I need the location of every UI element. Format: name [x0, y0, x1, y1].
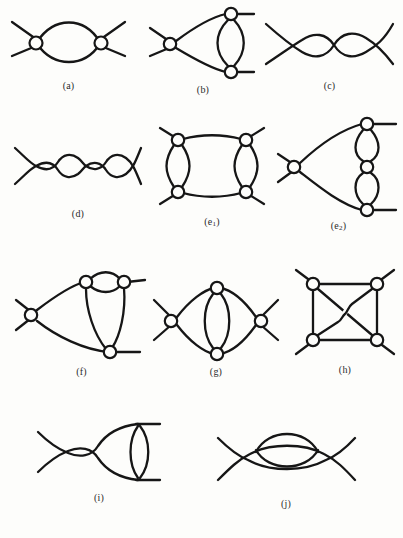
- diagram-f-graphic: [14, 262, 149, 362]
- diagram-i-caption: (i): [34, 492, 164, 503]
- diagram-j-graphic: [212, 410, 360, 494]
- diagram-row-4: (i) (j): [0, 404, 403, 538]
- diagram-f: (f): [14, 262, 149, 362]
- diagram-f-caption: (f): [14, 366, 149, 377]
- diagram-e1-graphic: [156, 120, 268, 212]
- diagram-c: (c): [262, 18, 397, 72]
- diagram-i: (i): [34, 418, 164, 488]
- diagram-row-1: (a): [0, 0, 403, 110]
- diagram-a-caption: (a): [6, 80, 131, 91]
- diagram-e1-caption: (e1): [156, 216, 268, 228]
- diagram-row-2: (d): [0, 112, 403, 242]
- diagram-b: (b): [148, 4, 258, 82]
- diagram-h-caption: (h): [290, 364, 400, 375]
- diagram-i-graphic: [34, 418, 164, 488]
- figure-plate: (a): [0, 0, 403, 538]
- diagram-g: (g): [152, 278, 280, 362]
- diagram-a: (a): [6, 8, 131, 78]
- diagram-b-graphic: [148, 4, 258, 82]
- diagram-e2-caption: (e2): [276, 220, 401, 232]
- diagram-d-graphic: [12, 142, 144, 190]
- diagram-c-caption: (c): [262, 80, 397, 91]
- diagram-e2: (e2): [276, 112, 401, 218]
- diagram-b-caption: (b): [148, 84, 258, 95]
- diagram-e2-graphic: [276, 112, 401, 218]
- diagram-g-caption: (g): [152, 366, 280, 377]
- diagram-row-3: (f): [0, 258, 403, 388]
- diagram-e1: (e1): [156, 120, 268, 212]
- diagram-d-caption: (d): [12, 208, 144, 219]
- diagram-j-caption: (j): [212, 498, 360, 509]
- diagram-h-graphic: [290, 264, 400, 360]
- diagram-j: (j): [212, 410, 360, 494]
- diagram-h: (h): [290, 264, 400, 360]
- diagram-c-graphic: [262, 18, 397, 72]
- diagram-d: (d): [12, 142, 144, 190]
- diagram-g-graphic: [152, 278, 280, 362]
- diagram-a-graphic: [6, 8, 131, 78]
